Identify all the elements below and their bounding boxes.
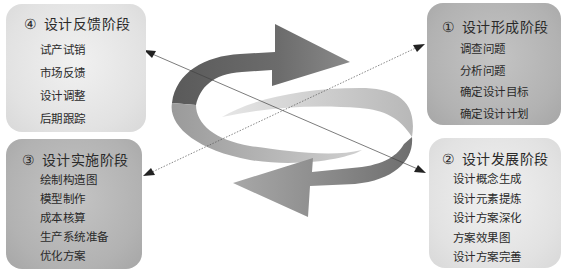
stage-item-list: 设计概念生成 设计元素提炼 设计方案深化 方案效果图 设计方案完善: [453, 170, 521, 268]
arrowhead-to-stage-2-icon: [414, 165, 426, 173]
list-item: 调查问题: [460, 39, 528, 61]
ribbon-left-band: [172, 103, 362, 163]
stage-title-text: 设计发展阶段: [462, 151, 549, 167]
stage-title-text: 设计形成阶段: [462, 19, 549, 35]
list-item: 设计方案深化: [453, 209, 521, 229]
stage-title: ④设计反馈阶段: [24, 13, 131, 33]
stage-box-implementation: ③设计实施阶段 绘制构造图 模型制作 成本核算 生产系统准备 优化方案: [6, 139, 142, 269]
stage-box-formation: ①设计形成阶段 调查问题 分析问题 确定设计目标 确定设计计划: [427, 3, 561, 125]
list-item: 绘制构造图: [40, 171, 108, 190]
list-item: 确定设计目标: [460, 82, 528, 104]
stage-item-list: 试产试销 市场反馈 设计调整 后期跟踪: [40, 39, 86, 131]
stage-number: ①: [442, 19, 456, 35]
stage-item-list: 调查问题 分析问题 确定设计目标 确定设计计划: [460, 39, 528, 125]
arrowhead-to-stage-1-icon: [413, 44, 425, 52]
ribbon-right-band: [222, 88, 413, 137]
list-item: 方案效果图: [453, 229, 521, 249]
list-item: 分析问题: [460, 61, 528, 83]
stage-box-development: ②设计发展阶段 设计概念生成 设计元素提炼 设计方案深化 方案效果图 设计方案完…: [429, 138, 561, 268]
stage-number: ②: [442, 151, 456, 167]
list-item: 市场反馈: [40, 62, 86, 85]
list-item: 试产试销: [40, 39, 86, 62]
stage-title: ③设计实施阶段: [22, 149, 129, 169]
list-item: 设计元素提炼: [453, 190, 521, 210]
list-item: 优化方案: [40, 247, 108, 266]
list-item: 设计概念生成: [453, 170, 521, 190]
stage-number: ④: [24, 16, 38, 32]
list-item: 生产系统准备: [40, 228, 108, 247]
list-item: 设计调整: [40, 85, 86, 108]
list-item: 后期跟踪: [40, 108, 86, 131]
stage-title-text: 设计反馈阶段: [44, 16, 131, 32]
stage-box-feedback: ④设计反馈阶段 试产试销 市场反馈 设计调整 后期跟踪: [6, 4, 146, 132]
list-item: 成本核算: [40, 209, 108, 228]
stage-title-text: 设计实施阶段: [42, 152, 129, 168]
stage-number: ③: [22, 152, 36, 168]
stage-title: ②设计发展阶段: [442, 148, 549, 168]
list-item: 设计方案完善: [453, 248, 521, 268]
list-item: 模型制作: [40, 190, 108, 209]
stage-title: ①设计形成阶段: [442, 16, 549, 36]
stage-item-list: 绘制构造图 模型制作 成本核算 生产系统准备 优化方案: [40, 171, 108, 266]
list-item: 确定设计计划: [460, 104, 528, 126]
arrowhead-to-stage-3-icon: [143, 168, 155, 176]
